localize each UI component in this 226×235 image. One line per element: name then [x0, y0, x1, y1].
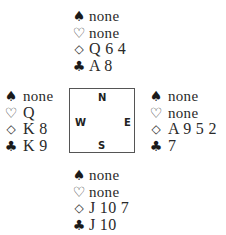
compass-south-label: S: [98, 141, 105, 151]
west-spades-cards: none: [23, 88, 53, 105]
north-diamonds-cards: Q 6 4: [89, 41, 126, 58]
west-clubs-cards: K 9: [23, 138, 47, 155]
diamond-icon: ◇: [3, 121, 19, 138]
east-clubs-cards: 7: [168, 138, 176, 155]
south-diamonds-cards: J 10 7: [89, 200, 129, 217]
north-spades-cards: none: [89, 8, 119, 25]
compass-box: N W E S: [69, 88, 135, 153]
club-icon: ♣: [71, 58, 87, 75]
west-hearts-cards: Q: [23, 105, 35, 122]
west-diamonds-cards: K 8: [23, 121, 47, 138]
club-icon: ♣: [71, 217, 87, 234]
heart-icon: ♡: [71, 184, 87, 201]
spade-icon: ♠: [148, 88, 164, 105]
east-hearts-cards: none: [168, 105, 198, 122]
east-spades-cards: none: [168, 88, 198, 105]
north-clubs-cards: A 8: [89, 58, 113, 75]
north-hearts-cards: none: [89, 25, 119, 42]
compass-east-label: E: [124, 118, 131, 128]
diamond-icon: ◇: [71, 41, 87, 58]
club-icon: ♣: [3, 138, 19, 155]
south-clubs-cards: J 10: [89, 217, 116, 234]
heart-icon: ♡: [71, 25, 87, 42]
south-spades-cards: none: [89, 167, 119, 184]
diamond-icon: ◇: [148, 121, 164, 138]
heart-icon: ♡: [148, 105, 164, 122]
spade-icon: ♠: [3, 88, 19, 105]
club-icon: ♣: [148, 138, 164, 155]
south-hearts-cards: none: [89, 184, 119, 201]
heart-icon: ♡: [3, 105, 19, 122]
diamond-icon: ◇: [71, 200, 87, 217]
compass-west-label: W: [75, 118, 86, 128]
spade-icon: ♠: [71, 167, 87, 184]
east-diamonds-cards: A 9 5 2: [168, 121, 217, 138]
compass-north-label: N: [98, 93, 106, 103]
spade-icon: ♠: [71, 8, 87, 25]
